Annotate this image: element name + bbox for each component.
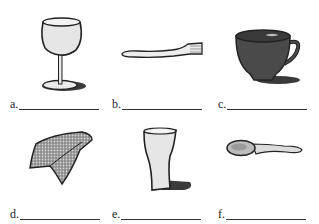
answer-blank-c[interactable] <box>227 99 307 110</box>
napkin-icon <box>2 110 106 206</box>
item-b: b. <box>104 0 208 112</box>
answer-blank-d[interactable] <box>20 209 100 220</box>
item-a: a. <box>2 0 106 112</box>
item-letter: e. <box>112 208 120 220</box>
answer-a: a. <box>10 96 99 110</box>
item-letter: a. <box>10 98 18 110</box>
item-letter: b. <box>112 98 121 110</box>
glass-icon <box>104 110 208 206</box>
answer-blank-b[interactable] <box>122 99 202 110</box>
answer-e: e. <box>112 206 201 220</box>
item-letter: f. <box>218 208 225 220</box>
answer-f: f. <box>218 206 306 220</box>
item-f: f. <box>210 110 314 222</box>
item-letter: d. <box>10 208 19 220</box>
wine-glass-icon <box>2 0 106 96</box>
answer-b: b. <box>112 96 202 110</box>
item-d: d. <box>2 110 106 222</box>
answer-blank-e[interactable] <box>121 209 201 220</box>
spoon-icon <box>210 110 314 206</box>
item-letter: c. <box>218 98 226 110</box>
answer-d: d. <box>10 206 100 220</box>
answer-blank-f[interactable] <box>226 209 306 220</box>
answer-blank-a[interactable] <box>19 99 99 110</box>
fork-icon <box>104 0 208 96</box>
item-e: e. <box>104 110 208 222</box>
item-c: c. <box>210 0 314 112</box>
answer-c: c. <box>218 96 307 110</box>
cup-icon <box>210 0 314 96</box>
